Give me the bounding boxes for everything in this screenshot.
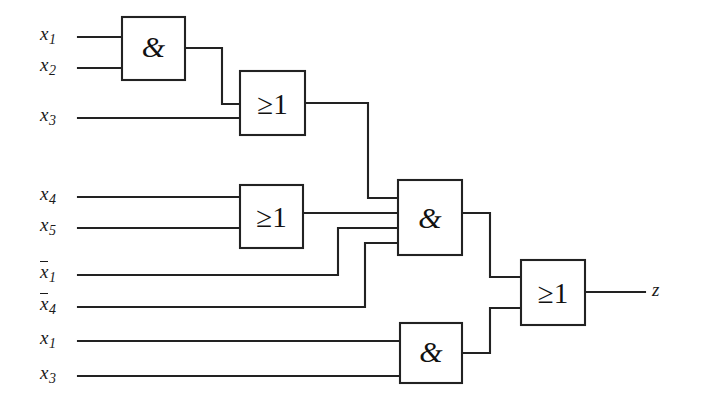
gate-or-2-symbol: ≥1 (256, 201, 286, 233)
input-var-subscript: 3 (48, 113, 56, 128)
gate-or-2[interactable]: ≥1 (240, 185, 303, 248)
gate-and-4-symbol: & (419, 335, 443, 368)
gate-or-3[interactable]: ≥1 (521, 260, 585, 325)
wire-and4-to-or3 (462, 308, 521, 353)
input-label-in-x3-b: x3 (40, 362, 56, 387)
input-label-in-x3: x3 (40, 104, 56, 129)
logic-circuit-canvas: & ≥1 ≥1 & & ≥1 (0, 0, 702, 411)
input-var-subscript: 4 (48, 192, 56, 207)
input-label-in-x5: x5 (40, 214, 56, 239)
input-var-subscript: 5 (48, 223, 56, 238)
gate-or-1[interactable]: ≥1 (240, 71, 305, 135)
gate-and-1-symbol: & (142, 30, 166, 63)
wire-and1-to-or1 (185, 48, 240, 104)
gate-and-4[interactable]: & (400, 323, 462, 383)
input-label-in-x1: x1 (40, 23, 56, 48)
input-label-in-x4: x4 (40, 183, 56, 208)
wire-or1-to-and3 (305, 103, 398, 198)
input-var-subscript: 4 (48, 302, 56, 317)
gate-and-1[interactable]: & (122, 17, 185, 80)
gate-or-3-symbol: ≥1 (538, 277, 568, 309)
input-var-subscript: 1 (48, 32, 56, 47)
wire-and3-to-or3 (462, 213, 521, 277)
gate-and-3[interactable]: & (398, 180, 462, 255)
input-var-subscript: 1 (48, 336, 56, 351)
input-label-in-x1-b: x1 (40, 327, 56, 352)
input-var-subscript: 3 (48, 371, 56, 386)
gate-and-3-symbol: & (418, 201, 442, 234)
input-var-subscript: 1 (48, 270, 56, 285)
input-var-subscript: 2 (48, 63, 56, 78)
input-label-in-x2: x2 (40, 54, 56, 79)
input-label-in-x1-not: x1 (40, 261, 56, 286)
input-label-in-x4-not: x4 (40, 293, 56, 318)
wire-x1not-to-and3 (78, 228, 398, 275)
gate-layer: & ≥1 ≥1 & & ≥1 (122, 17, 585, 383)
gate-or-1-symbol: ≥1 (257, 88, 287, 120)
output-label-z: z (652, 279, 659, 301)
